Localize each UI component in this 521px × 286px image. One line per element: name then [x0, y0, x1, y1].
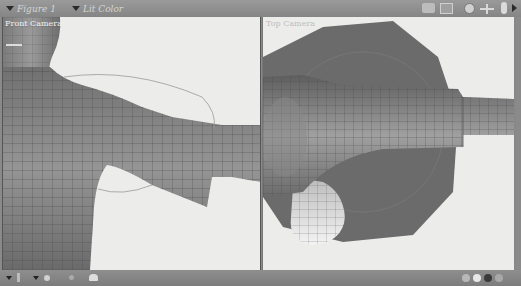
color-ball-icon[interactable] — [484, 274, 492, 282]
menu-triangle-icon[interactable] — [6, 276, 12, 280]
viewport-bottom-bar — [0, 270, 521, 286]
move-icon[interactable] — [480, 4, 494, 13]
camera-icon[interactable] — [422, 3, 435, 13]
figure-mesh-top — [263, 17, 516, 270]
figure-mesh — [2, 17, 261, 270]
display-style-dropdown[interactable]: Lit Color — [72, 4, 123, 14]
light-icon[interactable] — [44, 275, 50, 281]
viewport-label: Top Camera — [266, 19, 315, 28]
lamp-icon[interactable] — [89, 274, 98, 281]
dropdown-triangle-icon — [6, 6, 14, 11]
tool-icon[interactable] — [69, 275, 74, 280]
expand-arrow-icon[interactable] — [512, 4, 517, 12]
figure-dropdown-label: Figure 1 — [17, 4, 56, 14]
display-style-label: Lit Color — [83, 4, 123, 14]
window-icon[interactable] — [440, 3, 453, 14]
layout-icon[interactable] — [17, 273, 20, 282]
scale-icon[interactable] — [501, 2, 507, 14]
front-camera-viewport[interactable]: Front Camera — [2, 17, 261, 270]
color-ball-icon[interactable] — [495, 274, 503, 282]
figure-dropdown[interactable]: Figure 1 — [6, 4, 56, 14]
menu-triangle-icon[interactable] — [33, 276, 39, 280]
trackball-icon[interactable] — [464, 3, 475, 14]
dropdown-triangle-icon — [72, 6, 80, 11]
color-ball-icon[interactable] — [462, 274, 470, 282]
color-ball-icon[interactable] — [473, 274, 481, 282]
viewport-toolbar: Figure 1 Lit Color — [0, 0, 521, 17]
viewport-label: Front Camera — [5, 19, 62, 28]
top-camera-viewport[interactable]: Top Camera — [262, 17, 516, 270]
